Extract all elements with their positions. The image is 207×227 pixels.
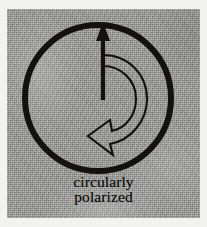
caption: circularly polarized — [0, 174, 207, 204]
caption-line-2: polarized — [0, 189, 207, 204]
outer-circle — [25, 25, 171, 171]
figure-root: circularly polarized — [0, 0, 207, 227]
caption-line-1: circularly — [0, 174, 207, 189]
curved-arrow — [88, 55, 147, 155]
